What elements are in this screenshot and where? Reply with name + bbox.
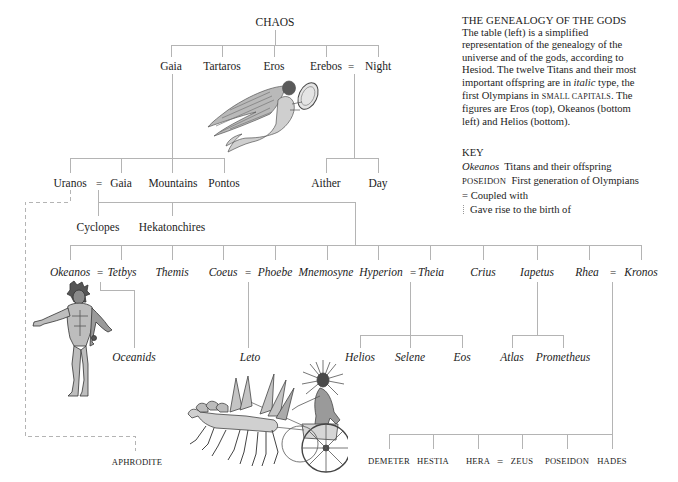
smallcaps-sample: SMALL CAPITALS [542,92,611,101]
node-erebos: Erebos [310,60,342,72]
node-okeanos: Okeanos [50,266,90,278]
node-theia: Theia [418,266,444,278]
eros-figure-illustration [200,72,325,157]
node-tetbys: Tetbys [108,266,137,278]
node-pontos: Pontos [208,177,239,189]
key-sample-italic: Okeanos [462,161,499,172]
description-line: universe and of the gods, according to [462,52,676,65]
coupled-with-symbol: = [96,177,102,189]
key-label: First generation of Olympians [511,175,638,186]
node-selene: Selene [395,351,425,363]
description-line: first Olympians in SMALL CAPITALS. The [462,90,676,104]
node-themis: Themis [155,266,188,278]
node-gaia-2: Gaia [110,177,132,189]
description-title: THE GENEALOGY OF THE GODS [462,14,676,27]
node-phoebe: Phoebe [258,266,292,278]
node-hekatonchires: Hekatonchires [139,221,205,233]
key-row-olympians: POSEIDON First generation of Olympians [462,174,676,188]
coupled-with-symbol: = [410,266,416,278]
node-helios: Helios [345,351,375,363]
node-mountains: Mountains [148,177,197,189]
coupled-with-symbol: = [610,266,616,278]
node-mnemosyne: Mnemosyne [299,266,354,278]
coupled-with-symbol: = [497,455,503,467]
node-oceanids: Oceanids [112,351,155,363]
key-row-titans: Okeanos Titans and their offspring [462,160,676,174]
description-block: THE GENEALOGY OF THE GODS The table (lef… [462,14,676,128]
key-heading: KEY [462,146,676,160]
node-zeus: ZEUS [511,455,533,467]
node-iapetus: Iapetus [520,266,554,278]
node-atlas: Atlas [500,351,524,363]
equals-icon: = [462,190,468,201]
node-night: Night [365,60,391,72]
key-row-birth: Gave rise to the birth of [462,203,676,217]
node-chaos: CHAOS [256,16,295,28]
description-line: figures are Eros (top), Okeanos (bottom [462,103,676,116]
text-segment: important offspring are in [462,77,574,88]
node-aphrodite: APHRODITE [112,456,163,468]
node-tartaros: Tartaros [203,60,241,72]
node-demeter: DEMETER [368,455,410,467]
key-sample-smallcaps: POSEIDON [462,176,506,186]
key-label: Gave rise to the birth of [470,204,571,215]
node-cyclopes: Cyclopes [77,221,120,233]
node-uranos: Uranos [53,177,86,189]
text-segment: type, the [595,77,634,88]
key-row-coupled: = Coupled with [462,189,676,203]
node-leto: Leto [240,351,260,363]
node-kronos: Kronos [624,266,657,278]
node-coeus: Coeus [209,266,238,278]
node-eos: Eos [453,351,470,363]
text-segment: . The [611,90,633,101]
description-line: left) and Helios (bottom). [462,116,676,129]
node-hera: HERA [466,455,490,467]
node-aither: Aither [311,177,340,189]
node-hestia: HESTIA [417,455,449,467]
description-line: Hesiod. The twelve Titans and their most [462,64,676,77]
coupled-with-symbol: = [348,60,354,72]
italic-sample: italic [574,77,596,88]
description-line: representation of the genealogy of the [462,39,676,52]
dotted-line-icon [463,205,470,214]
node-crius: Crius [470,266,496,278]
coupled-with-symbol: = [245,266,251,278]
text-segment: first Olympians in [462,90,542,101]
node-hades: HADES [597,455,627,467]
node-rhea: Rhea [575,266,599,278]
key-label: Coupled with [471,190,528,201]
description-line: important offspring are in italic type, … [462,77,676,90]
genealogy-diagram: CHAOS Gaia Tartaros Eros Erebos = Night … [0,0,678,482]
node-day: Day [368,177,387,189]
node-prometheus: Prometheus [536,351,591,363]
node-eros: Eros [263,60,284,72]
description-line: The table (left) is a simplified [462,27,676,40]
okeanos-figure-illustration [30,280,115,398]
legend-key: KEY Okeanos Titans and their offspring P… [462,146,676,217]
node-gaia: Gaia [160,60,182,72]
helios-chariot-illustration [186,360,348,476]
node-poseidon: POSEIDON [545,455,589,467]
coupled-with-symbol: = [97,266,103,278]
node-hyperion: Hyperion [359,266,402,278]
key-label: Titans and their offspring [504,161,611,172]
